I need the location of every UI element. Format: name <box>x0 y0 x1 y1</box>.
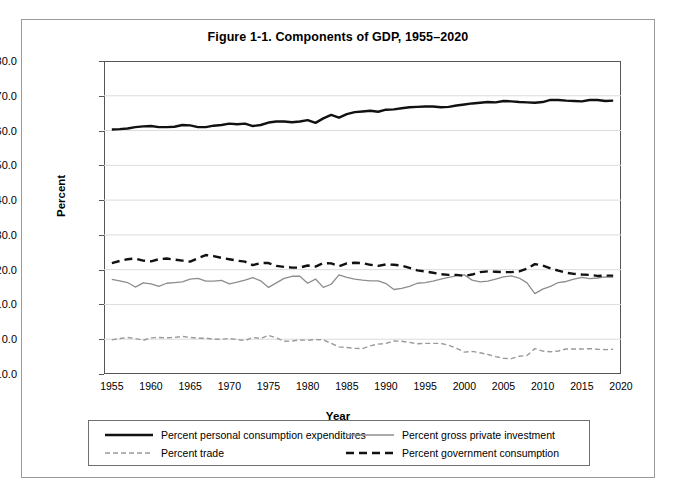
chart-legend: Percent personal consumption expenditure… <box>88 420 590 466</box>
y-tick-label: 0.0 <box>0 333 17 345</box>
y-tick-mark <box>99 61 104 62</box>
legend-item: Percent government consumption <box>344 447 559 459</box>
y-tick-mark <box>99 374 104 375</box>
y-tick-mark <box>99 304 104 305</box>
legend-label: Percent trade <box>161 447 224 459</box>
y-tick-mark <box>99 96 104 97</box>
y-tick-label: 50.0 <box>0 159 17 171</box>
y-tick-mark <box>99 270 104 271</box>
y-tick-label: 70.0 <box>0 90 17 102</box>
legend-swatch-icon <box>344 447 396 459</box>
legend-swatch-icon <box>103 447 155 459</box>
plot-wrapper: 80.070.060.050.040.030.020.010.00.0-10.0… <box>104 61 621 374</box>
y-tick-mark <box>99 200 104 201</box>
y-tick-label: 80.0 <box>0 55 17 67</box>
legend-swatch-icon <box>344 429 396 441</box>
y-tick-label: 30.0 <box>0 229 17 241</box>
y-tick-label: 60.0 <box>0 125 17 137</box>
y-tick-mark <box>99 339 104 340</box>
chart-svg <box>104 61 621 374</box>
legend-item: Percent gross private investment <box>344 429 555 441</box>
figure-container: Figure 1-1. Components of GDP, 1955–2020… <box>21 19 655 478</box>
legend-item: Percent trade <box>103 447 224 459</box>
series-line-0 <box>112 100 613 130</box>
x-tick-label: 2020 <box>598 380 644 392</box>
y-tick-label: 10.0 <box>0 298 17 310</box>
series-line-1 <box>112 275 613 294</box>
series-line-3 <box>112 255 613 276</box>
legend-item: Percent personal consumption expenditure… <box>103 429 366 441</box>
y-tick-label: 40.0 <box>0 194 17 206</box>
y-axis-label: Percent <box>55 175 67 217</box>
y-tick-label: 20.0 <box>0 264 17 276</box>
legend-swatch-icon <box>103 429 155 441</box>
legend-label: Percent government consumption <box>402 447 559 459</box>
y-tick-mark <box>99 235 104 236</box>
legend-label: Percent gross private investment <box>402 429 555 441</box>
y-tick-label: -10.0 <box>0 368 17 380</box>
y-tick-mark <box>99 131 104 132</box>
legend-label: Percent personal consumption expenditure… <box>161 429 366 441</box>
y-tick-mark <box>99 165 104 166</box>
chart-title: Figure 1-1. Components of GDP, 1955–2020 <box>22 30 654 44</box>
